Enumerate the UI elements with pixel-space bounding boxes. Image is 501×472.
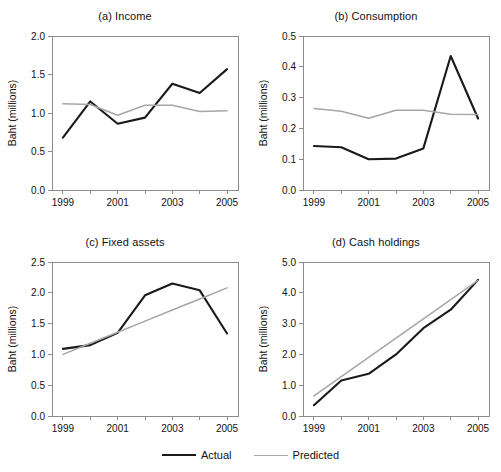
series-line-actual — [314, 56, 478, 159]
y-axis-title: Baht (millions) — [257, 80, 269, 147]
x-tick-label: 2001 — [358, 197, 381, 208]
y-tick-label: 0.5 — [282, 31, 296, 42]
x-tick-label: 2003 — [412, 197, 435, 208]
x-tick-label: 2003 — [412, 423, 435, 434]
series-line-predicted — [314, 280, 478, 395]
y-tick-label: 0.1 — [282, 154, 296, 165]
y-tick-label: 0.0 — [31, 185, 45, 196]
y-tick-label: 5.0 — [282, 257, 296, 268]
y-tick-label: 1.0 — [31, 108, 45, 119]
y-tick-label: 0.5 — [31, 146, 45, 157]
x-tick-label: 1999 — [52, 423, 75, 434]
series-line-actual — [314, 280, 478, 405]
panel-b-plot: 0.00.10.20.30.40.51999200120032005Baht (… — [251, 2, 501, 232]
y-axis-title: Baht (millions) — [6, 80, 18, 147]
y-tick-label: 1.0 — [31, 349, 45, 360]
chart-panel-d: (d) Cash holdings 0.01.02.03.04.05.01999… — [251, 228, 501, 458]
y-tick-label: 0.4 — [282, 61, 296, 72]
x-tick-label: 1999 — [303, 197, 326, 208]
y-tick-label: 2.0 — [282, 349, 296, 360]
y-tick-label: 2.0 — [31, 287, 45, 298]
x-tick-label: 2003 — [161, 197, 184, 208]
series-line-actual — [63, 69, 227, 138]
x-tick-label: 2005 — [216, 197, 239, 208]
y-tick-label: 1.5 — [31, 69, 45, 80]
panel-c-plot: 0.00.51.01.52.02.51999200120032005Baht (… — [0, 228, 250, 458]
x-tick-label: 2005 — [216, 423, 239, 434]
y-axis-title: Baht (millions) — [6, 306, 18, 373]
legend-entry-predicted: Predicted — [254, 449, 339, 461]
y-tick-label: 0.0 — [282, 185, 296, 196]
y-tick-label: 3.0 — [282, 318, 296, 329]
x-tick-label: 2001 — [358, 423, 381, 434]
x-tick-label: 2005 — [467, 197, 490, 208]
y-tick-label: 0.0 — [282, 411, 296, 422]
x-tick-label: 2001 — [107, 197, 130, 208]
x-tick-label: 1999 — [303, 423, 326, 434]
x-tick-label: 1999 — [52, 197, 75, 208]
y-tick-label: 2.5 — [31, 257, 45, 268]
series-line-predicted — [314, 108, 478, 118]
chart-panel-a: (a) Income 0.00.51.01.52.019992001200320… — [0, 2, 250, 232]
y-tick-label: 0.3 — [282, 92, 296, 103]
y-axis-title: Baht (millions) — [257, 306, 269, 373]
solid-black-line-icon — [162, 454, 196, 456]
x-tick-label: 2001 — [107, 423, 130, 434]
x-tick-label: 2003 — [161, 423, 184, 434]
legend-entry-actual: Actual — [162, 449, 232, 461]
figure-panel-grid: (a) Income 0.00.51.01.52.019992001200320… — [0, 0, 501, 472]
panel-a-plot: 0.00.51.01.52.01999200120032005Baht (mil… — [0, 2, 250, 232]
chart-panel-b: (b) Consumption 0.00.10.20.30.40.5199920… — [251, 2, 501, 232]
series-line-predicted — [63, 288, 227, 355]
y-tick-label: 0.5 — [31, 380, 45, 391]
chart-panel-c: (c) Fixed assets 0.00.51.01.52.02.519992… — [0, 228, 250, 458]
x-tick-label: 2005 — [467, 423, 490, 434]
legend-label-predicted: Predicted — [293, 449, 339, 461]
legend-label-actual: Actual — [201, 449, 232, 461]
y-tick-label: 4.0 — [282, 287, 296, 298]
y-tick-label: 0.0 — [31, 411, 45, 422]
y-tick-label: 2.0 — [31, 31, 45, 42]
y-tick-label: 0.2 — [282, 123, 296, 134]
series-line-actual — [63, 284, 227, 349]
y-tick-label: 1.0 — [282, 380, 296, 391]
y-tick-label: 1.5 — [31, 318, 45, 329]
panel-d-plot: 0.01.02.03.04.05.01999200120032005Baht (… — [251, 228, 501, 458]
solid-gray-line-icon — [254, 455, 288, 456]
chart-legend: Actual Predicted — [0, 440, 501, 470]
